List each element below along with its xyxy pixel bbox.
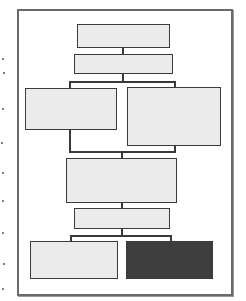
- branch-bar-top: [69, 81, 175, 83]
- margin-mark: [2, 200, 4, 202]
- node-2: [74, 54, 173, 74]
- connector-from-n3: [69, 130, 71, 152]
- node-8-highlighted: [126, 241, 213, 279]
- margin-mark: [2, 232, 4, 234]
- connector-to-n3: [69, 81, 71, 88]
- margin-mark: [2, 108, 4, 110]
- margin-mark: [3, 263, 5, 265]
- margin-mark: [2, 172, 4, 174]
- margin-mark: [3, 72, 5, 74]
- margin-mark: [2, 58, 4, 60]
- node-5: [66, 158, 177, 203]
- node-1: [77, 24, 170, 48]
- node-6: [74, 208, 170, 229]
- branch-bar-bottom: [70, 235, 172, 237]
- margin-mark: [1, 142, 3, 144]
- connector-n2-branch: [122, 74, 124, 81]
- node-4: [127, 87, 221, 146]
- node-3: [25, 88, 117, 130]
- join-bar: [69, 151, 176, 153]
- node-7: [30, 241, 118, 279]
- margin-mark: [2, 288, 4, 290]
- connector-to-n5: [121, 151, 123, 158]
